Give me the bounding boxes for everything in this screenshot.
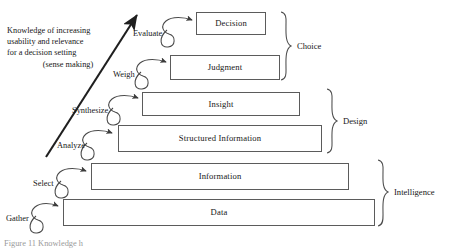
loop-arrow-weigh: [135, 60, 166, 90]
annotation-text-block: Knowledge of increasing usability and re…: [7, 25, 129, 70]
brace-intelligence: [378, 160, 388, 226]
group-label-design: Design: [343, 117, 367, 126]
verb-label-select: Select: [33, 180, 53, 188]
level-box-insight[interactable]: Insight: [142, 92, 300, 116]
group-label-intelligence: Intelligence: [394, 188, 435, 197]
loop-arrow-analyze: [81, 131, 112, 161]
verb-label-synthesize: Synthesize: [72, 107, 108, 115]
level-label-data: Data: [211, 208, 228, 217]
level-box-data[interactable]: Data: [63, 199, 375, 226]
verb-label-evaluate: Evaluate: [133, 30, 162, 38]
diagram-canvas: Decision Judgment Insight Structured Inf…: [0, 0, 455, 248]
level-box-decision[interactable]: Decision: [196, 12, 266, 35]
verb-label-weigh: Weigh: [113, 71, 135, 79]
level-label-judgment: Judgment: [208, 63, 243, 72]
verb-label-analyze: Analyze: [57, 142, 85, 150]
verb-label-gather: Gather: [6, 215, 29, 223]
level-box-information[interactable]: Information: [91, 163, 349, 190]
loop-arrow-select: [55, 169, 86, 199]
brace-choice: [281, 12, 291, 80]
loop-arrow-evaluate: [161, 18, 192, 48]
loop-arrow-synthesize: [107, 96, 138, 126]
annotation-line-1: Knowledge of increasing: [7, 26, 90, 35]
level-label-information: Information: [199, 172, 242, 181]
annotation-line-4: (sense making): [7, 59, 129, 70]
loop-arrow-gather: [30, 204, 58, 234]
figure-caption: Figure 11 Knowledge h: [4, 239, 83, 248]
group-label-choice: Choice: [297, 42, 321, 51]
annotation-line-2: usability and relevance: [7, 37, 83, 46]
level-box-structured-information[interactable]: Structured Information: [118, 125, 322, 152]
level-label-structured-information: Structured Information: [179, 134, 261, 143]
level-label-insight: Insight: [209, 100, 234, 109]
level-label-decision: Decision: [215, 19, 247, 28]
annotation-line-3: for a decision setting: [7, 48, 76, 57]
brace-design: [327, 89, 337, 153]
level-box-judgment[interactable]: Judgment: [170, 55, 280, 80]
